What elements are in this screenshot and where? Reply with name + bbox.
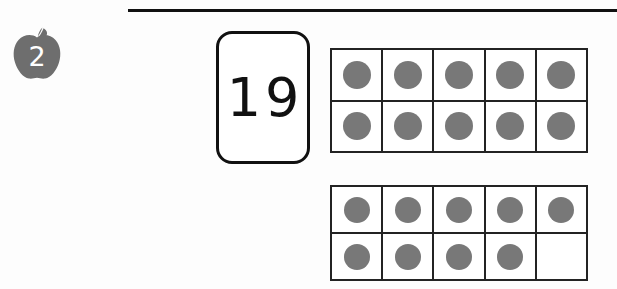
counter-dot [343, 61, 371, 89]
ten-frame-1-cell-4[interactable] [486, 50, 537, 100]
counter-dot [445, 61, 473, 89]
ten-frame-1-cell-10[interactable] [537, 102, 586, 152]
ten-frame-1-row-top [332, 50, 586, 102]
counter-dot [548, 197, 574, 223]
ten-frame-2-cell-9[interactable] [486, 234, 537, 279]
ten-frame-2 [330, 185, 588, 281]
ten-frame-2-cell-5[interactable] [537, 187, 586, 232]
ten-frame-2-row-bottom [332, 234, 586, 279]
ten-frame-2-cell-8[interactable] [434, 234, 485, 279]
counter-dot [446, 244, 472, 270]
ten-frame-2-cell-7[interactable] [383, 234, 434, 279]
counter-dot [497, 244, 523, 270]
ten-frame-2-cell-6[interactable] [332, 234, 383, 279]
ten-frame-2-cell-3[interactable] [434, 187, 485, 232]
ten-frame-1-cell-2[interactable] [383, 50, 434, 100]
ten-frame-2-row-top [332, 187, 586, 234]
ten-frame-1-cell-6[interactable] [332, 102, 383, 152]
counter-dot [344, 244, 370, 270]
ten-frame-1-cell-3[interactable] [434, 50, 485, 100]
worksheet-page: 2 19 [0, 0, 617, 289]
counter-dot [344, 197, 370, 223]
number-card: 19 [216, 31, 310, 164]
ten-frame-1-cell-8[interactable] [434, 102, 485, 152]
ten-frame-1-cell-5[interactable] [537, 50, 586, 100]
number-card-value: 19 [223, 71, 304, 125]
ten-frame-2-cell-2[interactable] [383, 187, 434, 232]
counter-dot [343, 112, 371, 140]
ten-frame-1-cell-7[interactable] [383, 102, 434, 152]
counter-dot [547, 61, 575, 89]
counter-dot [547, 112, 575, 140]
counter-dot [394, 112, 422, 140]
apple-icon: 2 [12, 26, 62, 80]
counter-dot [497, 197, 523, 223]
horizontal-divider [128, 9, 617, 12]
apple-badge-number: 2 [12, 26, 62, 80]
counter-dot [496, 61, 524, 89]
ten-frame-2-cell-4[interactable] [486, 187, 537, 232]
ten-frame-1-cell-9[interactable] [486, 102, 537, 152]
counter-dot [395, 244, 421, 270]
counter-dot [496, 112, 524, 140]
ten-frame-1-cell-1[interactable] [332, 50, 383, 100]
counter-dot [446, 197, 472, 223]
counter-dot [445, 112, 473, 140]
ten-frame-1-row-bottom [332, 102, 586, 152]
counter-dot [394, 61, 422, 89]
counter-dot [395, 197, 421, 223]
ten-frame-2-cell-1[interactable] [332, 187, 383, 232]
ten-frame-1 [330, 48, 588, 153]
ten-frame-2-cell-10[interactable] [537, 234, 586, 279]
